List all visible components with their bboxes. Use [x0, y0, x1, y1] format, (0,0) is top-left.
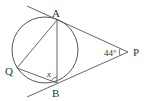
label-a: A [52, 7, 60, 19]
angle-arc-x [51, 77, 57, 81]
label-p: P [133, 46, 139, 58]
angle-x-label: x [46, 69, 51, 79]
angle-arc-p [119, 49, 120, 56]
chord-qa [17, 20, 57, 68]
geometry-diagram: A B Q P 44° x [0, 0, 152, 101]
circle [12, 17, 78, 83]
chord-qb [17, 68, 57, 83]
label-q: Q [5, 65, 13, 77]
angle-p-label: 44° [104, 48, 117, 58]
label-b: B [52, 87, 59, 99]
tangent-line-pb [27, 52, 128, 97]
